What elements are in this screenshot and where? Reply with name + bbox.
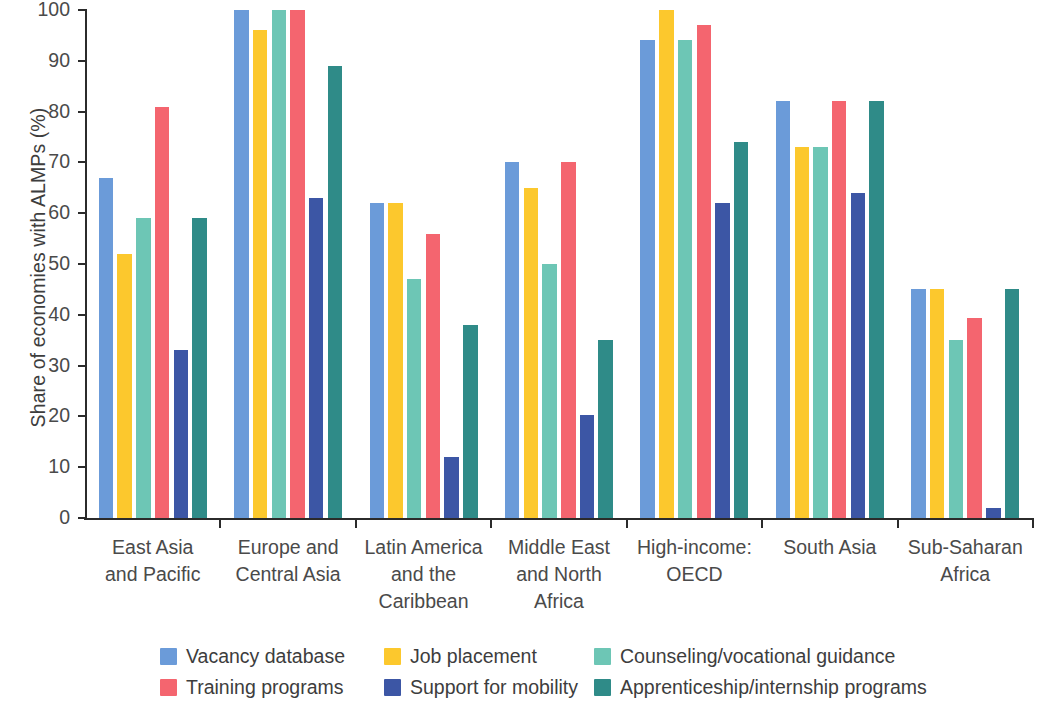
- x-axis-category-label: Middle Eastand NorthAfrica: [483, 534, 634, 615]
- bar: [174, 350, 189, 518]
- category-label-line: High-income:: [619, 534, 770, 561]
- legend-swatch-icon: [594, 648, 611, 665]
- category-label-line: OECD: [619, 561, 770, 588]
- bar: [659, 10, 674, 518]
- bar: [697, 25, 712, 518]
- category-label-line: Latin America: [348, 534, 499, 561]
- bar: [580, 415, 595, 518]
- bar: [136, 218, 151, 518]
- bar: [949, 340, 964, 518]
- legend-label: Vacancy database: [186, 645, 345, 668]
- bar: [640, 40, 655, 518]
- chart-legend: Vacancy databaseJob placementCounseling/…: [160, 641, 1040, 703]
- x-axis-tick-mark: [219, 519, 221, 528]
- category-label-line: Caribbean: [348, 588, 499, 615]
- bar: [598, 340, 613, 518]
- legend-item[interactable]: Support for mobility: [384, 676, 594, 699]
- x-axis-category-label: Europe andCentral Asia: [212, 534, 363, 588]
- bar: [869, 101, 884, 518]
- bar: [911, 289, 926, 518]
- bar-group: [491, 10, 626, 518]
- bar: [309, 198, 324, 518]
- legend-swatch-icon: [594, 679, 611, 696]
- bar: [370, 203, 385, 518]
- x-axis-category-label: Latin Americaand theCaribbean: [348, 534, 499, 615]
- chart-figure: Share of economies with ALMPs (%) 010203…: [0, 0, 1041, 704]
- legend-item[interactable]: Counseling/vocational guidance: [594, 645, 1040, 668]
- x-axis-tick-mark: [761, 519, 763, 528]
- y-axis-tick-label: 80: [8, 102, 70, 122]
- x-axis-tick-mark: [626, 519, 628, 528]
- bar: [776, 101, 791, 518]
- legend-label: Job placement: [410, 645, 537, 668]
- category-label-line: Africa: [483, 588, 634, 615]
- legend-item[interactable]: Vacancy database: [160, 645, 384, 668]
- legend-item[interactable]: Training programs: [160, 676, 384, 699]
- bar-group: [627, 10, 762, 518]
- bar: [986, 508, 1001, 518]
- x-axis-line: [84, 518, 1034, 520]
- bar: [678, 40, 693, 518]
- bar: [967, 318, 982, 518]
- y-axis-tick-label: 60: [8, 203, 70, 223]
- category-label-line: Africa: [890, 561, 1041, 588]
- legend-item[interactable]: Apprenticeship/internship programs: [594, 676, 1040, 699]
- bar: [328, 66, 343, 518]
- bar: [813, 147, 828, 518]
- bar: [505, 162, 520, 518]
- bar: [155, 107, 170, 518]
- bar: [234, 10, 249, 518]
- bar-group: [85, 10, 220, 518]
- bar: [734, 142, 749, 518]
- bar: [795, 147, 810, 518]
- legend-label: Support for mobility: [410, 676, 578, 699]
- bar: [930, 289, 945, 518]
- y-axis-tick-label: 40: [8, 305, 70, 325]
- bar: [117, 254, 132, 518]
- category-label-line: Middle East: [483, 534, 634, 561]
- legend-swatch-icon: [160, 648, 177, 665]
- x-axis-category-label: High-income:OECD: [619, 534, 770, 588]
- y-axis-tick-label: 100: [8, 0, 70, 20]
- y-axis-tick-label: 30: [8, 356, 70, 376]
- category-label-line: South Asia: [754, 534, 905, 561]
- bar: [542, 264, 557, 518]
- bar: [99, 178, 114, 518]
- bar: [192, 218, 207, 518]
- legend-item[interactable]: Job placement: [384, 645, 594, 668]
- bar-group: [762, 10, 897, 518]
- category-label-line: East Asia: [77, 534, 228, 561]
- bar: [524, 188, 539, 518]
- bar: [1005, 289, 1020, 518]
- y-axis-tick-label: 70: [8, 152, 70, 172]
- y-axis-tick-label: 50: [8, 254, 70, 274]
- bar: [715, 203, 730, 518]
- x-axis-tick-mark: [1032, 519, 1034, 528]
- bar: [407, 279, 422, 518]
- bar: [851, 193, 866, 518]
- category-label-line: Sub-Saharan: [890, 534, 1041, 561]
- bar: [272, 10, 287, 518]
- legend-label: Apprenticeship/internship programs: [620, 676, 927, 699]
- bar: [290, 10, 305, 518]
- bar: [832, 101, 847, 518]
- legend-swatch-icon: [384, 679, 401, 696]
- x-axis-tick-mark: [897, 519, 899, 528]
- bar: [253, 30, 268, 518]
- bar-group: [220, 10, 355, 518]
- x-axis-category-label: East Asiaand Pacific: [77, 534, 228, 588]
- category-label-line: and Pacific: [77, 561, 228, 588]
- bar-group: [898, 10, 1033, 518]
- bar-group: [356, 10, 491, 518]
- x-axis-tick-mark: [490, 519, 492, 528]
- category-label-line: and the: [348, 561, 499, 588]
- category-label-line: Central Asia: [212, 561, 363, 588]
- x-axis-category-label: Sub-SaharanAfrica: [890, 534, 1041, 588]
- legend-swatch-icon: [384, 648, 401, 665]
- bar: [426, 234, 441, 518]
- y-axis-tick-label: 20: [8, 406, 70, 426]
- category-label-line: and North: [483, 561, 634, 588]
- plot-area: [85, 10, 1033, 518]
- y-axis-tick-label: 0: [8, 508, 70, 528]
- legend-label: Counseling/vocational guidance: [620, 645, 895, 668]
